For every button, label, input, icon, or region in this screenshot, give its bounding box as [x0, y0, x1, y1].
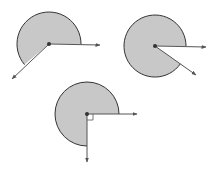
shaded-sector: [17, 12, 81, 65]
ray-initial: [155, 46, 206, 47]
vertex-point: [47, 42, 51, 46]
ray-initial: [49, 44, 100, 45]
reflex-angle-figure-3: [55, 82, 137, 162]
vertex-point: [85, 112, 89, 116]
reflex-angle-figure-2: [124, 15, 206, 77]
diagram-canvas: [0, 0, 214, 170]
vertex-point: [153, 44, 157, 48]
reflex-angle-figure-1: [12, 12, 100, 79]
